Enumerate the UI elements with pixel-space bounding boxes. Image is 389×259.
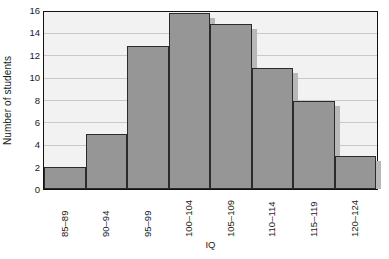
y-axis-tick-label: 6: [18, 118, 40, 128]
x-axis-tick-label-text: 100–104: [184, 200, 194, 237]
plot-area: [43, 11, 378, 190]
y-axis-tick-label: 16: [18, 6, 40, 16]
bar: [86, 134, 128, 189]
x-axis-tick-label: 120–124: [350, 191, 389, 239]
x-axis-tick-label-text: 85–89: [60, 211, 70, 237]
y-axis-tick-label: 14: [18, 29, 40, 39]
histogram-chart: Number of students 0246810121416 85–8990…: [0, 0, 389, 259]
bars-layer: [44, 12, 377, 189]
x-axis-tick-label-text: 95–99: [143, 211, 153, 237]
x-axis-tick-label-text: 115–119: [309, 201, 319, 237]
x-axis-tick-label-text: 105–109: [226, 200, 236, 237]
bar: [169, 13, 211, 189]
y-axis-title-label: Number of students: [3, 55, 14, 144]
x-axis-title: IQ: [43, 239, 378, 250]
x-axis-tick-label-text: 90–94: [101, 211, 111, 237]
y-axis-tick-label: 0: [18, 185, 40, 195]
bar: [44, 167, 86, 189]
bar: [335, 156, 377, 189]
bar: [252, 68, 294, 189]
y-axis-tick-label: 10: [18, 73, 40, 83]
bar: [210, 24, 252, 189]
x-axis-tick-label-text: 110–114: [267, 201, 277, 237]
bar: [293, 101, 335, 189]
y-axis-tick-label: 2: [18, 163, 40, 173]
y-axis-tick-labels: 0246810121416: [18, 0, 40, 200]
y-axis-title: Number of students: [0, 0, 16, 200]
y-axis-tick-label: 4: [18, 141, 40, 151]
y-axis-tick-label: 8: [18, 96, 40, 106]
y-axis-tick-label: 12: [18, 51, 40, 61]
x-axis-tick-labels: 85–8990–9495–99100–104105–109110–114115–…: [43, 191, 378, 239]
plot-inner: [44, 12, 377, 189]
bar: [127, 46, 169, 189]
x-axis-tick-label-text: 120–124: [350, 200, 360, 237]
